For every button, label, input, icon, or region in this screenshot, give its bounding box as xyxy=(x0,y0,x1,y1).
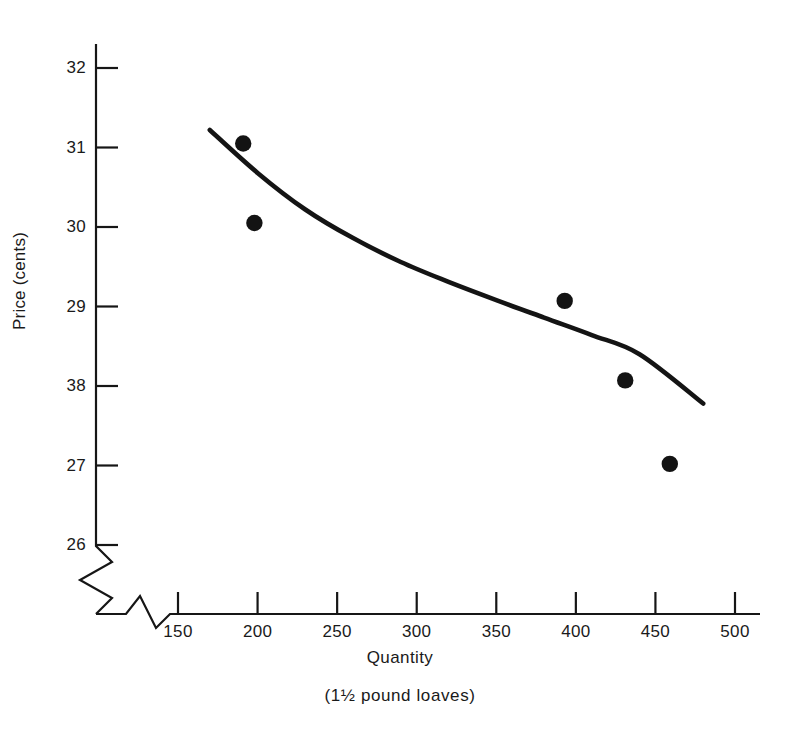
y-axis-line xyxy=(80,44,112,614)
data-point xyxy=(662,456,678,472)
data-point-group xyxy=(235,135,678,472)
data-point xyxy=(557,293,573,309)
x-tick-label: 450 xyxy=(641,622,670,642)
data-point xyxy=(617,372,633,388)
demand-curve-chart: 32313029382726 150200250300350400450500 … xyxy=(0,0,800,729)
x-axis-title: Quantity xyxy=(0,648,800,668)
x-tick-label: 200 xyxy=(243,622,272,642)
y-axis-title: Price (cents) xyxy=(10,232,30,330)
y-tick-marks xyxy=(96,68,118,545)
y-tick-label: 31 xyxy=(40,138,86,158)
x-tick-label: 250 xyxy=(323,622,352,642)
x-tick-label: 150 xyxy=(163,622,192,642)
y-tick-label: 26 xyxy=(40,535,86,555)
fitted-demand-curve xyxy=(210,130,703,404)
y-tick-label: 38 xyxy=(40,376,86,396)
data-point xyxy=(246,215,262,231)
x-tick-label: 350 xyxy=(482,622,511,642)
x-axis-title-sub: (1½ pound loaves) xyxy=(0,686,800,706)
y-tick-label: 27 xyxy=(40,456,86,476)
y-tick-label: 29 xyxy=(40,297,86,317)
x-tick-label: 300 xyxy=(402,622,431,642)
x-tick-label: 500 xyxy=(720,622,749,642)
x-axis-title-sub-text: (1½ pound loaves) xyxy=(324,686,475,705)
x-tick-marks xyxy=(178,592,735,614)
y-tick-label: 32 xyxy=(40,58,86,78)
chart-plot-area xyxy=(0,0,800,729)
y-tick-label: 30 xyxy=(40,217,86,237)
x-tick-label: 400 xyxy=(561,622,590,642)
data-point xyxy=(235,135,251,151)
